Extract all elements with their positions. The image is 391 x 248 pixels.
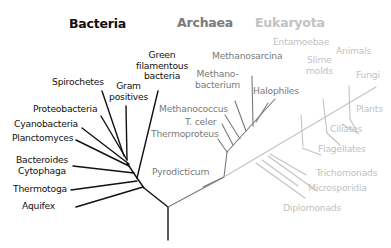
label-flagellates: Flagellates	[318, 144, 366, 155]
label-halophiles: Halophiles	[253, 86, 299, 97]
label-planctomyces: Planctomyces	[12, 133, 73, 144]
label-aquifex: Aquifex	[22, 201, 55, 212]
domain-title-archaea: Archaea	[177, 15, 233, 30]
phylogenetic-tree-diagram: Bacteria Archaea Eukaryota Green filamen…	[0, 0, 391, 248]
label-fungi: Fungi	[356, 70, 380, 81]
label-spirochetes: Spirochetes	[52, 77, 104, 88]
label-animals: Animals	[336, 46, 371, 57]
label-thermotoga: Thermotoga	[13, 184, 67, 195]
label-methanobacterium: Methano- bacterium	[195, 69, 240, 90]
label-gram-positives: Gram positives	[109, 81, 148, 102]
domain-title-eukaryota: Eukaryota	[255, 15, 325, 30]
label-methanosarcina: Methanosarcina	[212, 51, 282, 62]
label-entamoebae: Entamoebae	[273, 37, 329, 48]
label-t-celer: T. celer	[185, 117, 216, 128]
label-trichomonads: Trichomonads	[316, 168, 377, 179]
label-diplomonads: Diplomonads	[283, 203, 341, 214]
label-ciliates: Ciliates	[330, 124, 362, 135]
label-bacteroides-cytophaga: Bacteroides Cytophaga	[16, 155, 68, 176]
label-pyrodicticum: Pyrodicticum	[152, 167, 209, 178]
label-slime-molds: Slime molds	[306, 55, 333, 76]
label-cyanobacteria: Cyanobacteria	[14, 119, 78, 130]
label-plants: Plants	[356, 104, 383, 115]
label-thermoproteus: Thermoproteus	[151, 129, 219, 140]
label-methanococcus: Methanococcus	[159, 104, 228, 115]
label-green-filamentous-bacteria: Green filamentous bacteria	[136, 50, 188, 82]
domain-title-bacteria: Bacteria	[69, 16, 126, 31]
label-proteobacteria: Proteobacteria	[33, 104, 97, 115]
label-microsporidia: Microsporidia	[308, 183, 367, 194]
